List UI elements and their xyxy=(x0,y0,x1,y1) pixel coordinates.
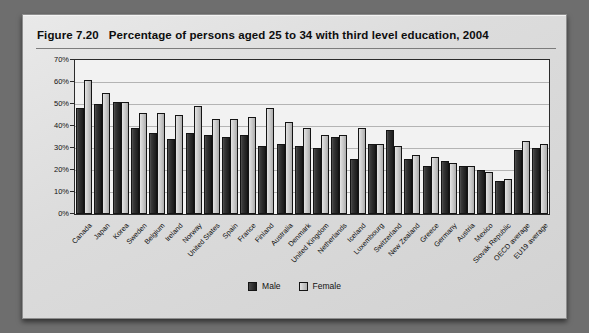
chart-bar-group xyxy=(148,60,166,214)
chart-bar-group xyxy=(130,60,148,214)
chart-bar-group xyxy=(403,60,421,214)
bar-female xyxy=(485,172,493,214)
bar-male xyxy=(222,137,230,214)
bar-female xyxy=(266,108,274,214)
bar-female xyxy=(303,128,311,214)
bar-female xyxy=(84,80,92,214)
bar-male xyxy=(423,166,431,214)
bar-male xyxy=(258,146,266,214)
bar-male xyxy=(131,128,139,214)
bar-male xyxy=(441,161,449,214)
chart-bar-group xyxy=(494,60,512,214)
bar-male xyxy=(459,166,467,214)
y-axis-tick-mark xyxy=(70,169,74,170)
page-title: Percentage of persons aged 25 to 34 with… xyxy=(109,29,489,41)
bar-male xyxy=(495,181,503,214)
bar-female xyxy=(321,135,329,214)
title-divider xyxy=(36,48,556,49)
figure-title-row: Figure 7.20Percentage of persons aged 25… xyxy=(37,25,555,45)
chart-bar-group xyxy=(75,60,93,214)
chart-bar-group xyxy=(203,60,221,214)
bar-female xyxy=(449,163,457,214)
bar-male xyxy=(167,139,175,214)
bar-female xyxy=(412,155,420,214)
chart-bar-group xyxy=(330,60,348,214)
bar-female xyxy=(467,166,475,214)
chart-bar-group xyxy=(276,60,294,214)
bar-male xyxy=(149,133,157,214)
chart-bar-group xyxy=(349,60,367,214)
chart-bar-group xyxy=(458,60,476,214)
chart-bar-group xyxy=(294,60,312,214)
bar-female xyxy=(358,128,366,214)
bar-female xyxy=(540,144,548,214)
figure-card: Figure 7.20Percentage of persons aged 25… xyxy=(22,14,567,319)
bar-male xyxy=(277,144,285,214)
bar-male xyxy=(514,150,522,214)
bar-female xyxy=(102,93,110,214)
bar-female xyxy=(212,119,220,214)
y-axis-tick-mark xyxy=(70,59,74,60)
chart-bar-group xyxy=(476,60,494,214)
bar-male xyxy=(350,159,358,214)
chart-bar-group xyxy=(531,60,549,214)
y-axis-tick-mark xyxy=(70,81,74,82)
bar-male xyxy=(313,148,321,214)
bar-male xyxy=(186,133,194,214)
bar-female xyxy=(194,106,202,214)
chart-bar-group xyxy=(221,60,239,214)
x-axis-tick-label: Austria xyxy=(455,221,477,244)
y-axis-tick-mark xyxy=(70,147,74,148)
bar-male xyxy=(204,135,212,214)
chart-bar-group xyxy=(513,60,531,214)
bar-female xyxy=(376,144,384,214)
bar-male xyxy=(295,146,303,214)
y-axis-tick-mark xyxy=(70,103,74,104)
chart-bar-group xyxy=(93,60,111,214)
chart-bar-group xyxy=(367,60,385,214)
bar-female xyxy=(248,117,256,214)
bar-female xyxy=(157,113,165,214)
x-axis-tick-label: Japan xyxy=(92,221,112,241)
legend-label: Female xyxy=(313,281,341,291)
chart-bar-group xyxy=(111,60,129,214)
bar-female xyxy=(285,122,293,214)
legend-label: Male xyxy=(262,281,280,291)
figure-number: Figure 7.20 xyxy=(37,29,99,41)
bar-male xyxy=(240,135,248,214)
bar-female xyxy=(121,102,129,214)
y-axis-tick-mark xyxy=(70,125,74,126)
chart-bar-group xyxy=(385,60,403,214)
legend-swatch-female xyxy=(299,282,308,291)
chart-bar-group xyxy=(440,60,458,214)
y-axis-tick-mark xyxy=(70,213,74,214)
bar-male xyxy=(113,102,121,214)
bar-male xyxy=(331,137,339,214)
bar-male xyxy=(76,108,84,214)
bar-female xyxy=(431,157,439,214)
bar-female xyxy=(522,141,530,214)
chart-bar-group xyxy=(166,60,184,214)
bar-female xyxy=(175,115,183,214)
x-axis-tick-label: Canada xyxy=(70,221,94,246)
chart-bar-group xyxy=(421,60,439,214)
bar-female xyxy=(339,135,347,214)
chart-bar-group xyxy=(184,60,202,214)
chart-bar-group xyxy=(239,60,257,214)
bar-male xyxy=(532,148,540,214)
chart-legend: MaleFemale xyxy=(23,281,566,291)
bar-female xyxy=(504,179,512,214)
bar-male xyxy=(368,144,376,214)
chart-bar-group xyxy=(312,60,330,214)
chart-bar-groups xyxy=(75,60,549,214)
bar-male xyxy=(404,159,412,214)
legend-item: Female xyxy=(299,281,341,291)
chart-bar-group xyxy=(257,60,275,214)
bar-male xyxy=(386,130,394,214)
chart-plot-area xyxy=(74,59,550,215)
bar-female xyxy=(139,113,147,214)
chart-plot-wrapper: 0%10%20%30%40%50%60%70% CanadaJapanKorea… xyxy=(36,53,556,253)
legend-swatch-male xyxy=(248,282,257,291)
bar-female xyxy=(230,119,238,214)
legend-item: Male xyxy=(248,281,280,291)
